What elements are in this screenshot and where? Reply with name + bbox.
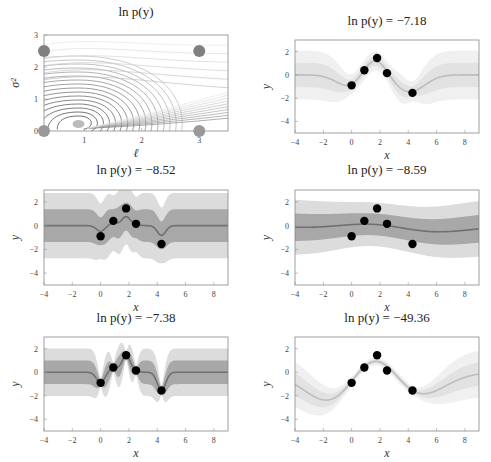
data-point: [408, 386, 416, 394]
hyperparameter-marker: [38, 125, 50, 137]
data-point: [122, 204, 130, 212]
x-tick-label: 0: [350, 138, 354, 147]
x-tick-label: 0: [99, 290, 103, 299]
y-tick-label: 0: [285, 368, 289, 377]
data-point: [96, 232, 104, 240]
x-tick-label: 4: [406, 290, 410, 299]
data-point: [373, 351, 381, 359]
y-tick-label: 0: [34, 222, 38, 231]
x-tick-label: 4: [406, 436, 410, 445]
gp-panel-1: −4−202468−4−202: [280, 40, 479, 147]
x-tick-label: −4: [291, 138, 300, 147]
y-tick-label: −2: [280, 392, 289, 401]
x-tick-label: 2: [378, 436, 382, 445]
x-tick-label: 8: [463, 138, 467, 147]
x-axis-label: x: [132, 446, 139, 460]
x-tick-label: 1: [82, 136, 86, 145]
gp-panel-2: −4−202468−4−202: [29, 189, 228, 299]
x-tick-label: 0: [99, 436, 103, 445]
x-tick-label: 0: [350, 436, 354, 445]
x-tick-label: −4: [291, 290, 300, 299]
y-tick-label: −4: [280, 415, 289, 424]
x-tick-label: 3: [197, 136, 201, 145]
data-point: [383, 220, 391, 228]
y-tick-label: −2: [280, 245, 289, 254]
x-tick-label: 2: [378, 138, 382, 147]
x-tick-label: 0: [350, 290, 354, 299]
x-tick-label: 6: [435, 138, 439, 147]
data-point: [96, 379, 104, 387]
x-tick-label: −2: [68, 290, 77, 299]
x-axis-label: ℓ: [134, 146, 139, 160]
x-tick-label: −4: [40, 290, 49, 299]
y-tick-label: 1: [34, 95, 38, 104]
x-axis-label: x: [383, 446, 390, 460]
optimum-marker: [73, 120, 85, 128]
x-tick-label: −2: [319, 290, 328, 299]
panel-title: ln p(y) = −7.38: [44, 310, 228, 326]
data-point: [360, 66, 368, 74]
data-point: [383, 69, 391, 77]
x-tick-label: −4: [291, 436, 300, 445]
panel-title: ln p(y) = −49.36: [295, 310, 479, 326]
y-tick-label: −2: [29, 245, 38, 254]
panel-title: ln p(y): [44, 4, 228, 20]
panel-title: ln p(y) = −7.18: [295, 13, 479, 29]
chart-canvas: 1230123ℓσ²−4−202468−4−202xy−4−202468−4−2…: [0, 0, 491, 462]
data-point: [109, 363, 117, 371]
x-tick-label: 8: [463, 436, 467, 445]
x-tick-label: −2: [319, 436, 328, 445]
x-tick-label: 4: [406, 138, 410, 147]
y-tick-label: 2: [285, 345, 289, 354]
x-tick-label: 2: [140, 136, 144, 145]
data-point: [157, 240, 165, 248]
data-point: [132, 366, 140, 374]
x-tick-label: 6: [435, 436, 439, 445]
data-point: [122, 351, 130, 359]
y-axis-label: y: [259, 234, 273, 241]
y-tick-label: −4: [29, 415, 38, 424]
data-point: [360, 217, 368, 225]
y-tick-label: 0: [34, 368, 38, 377]
contour-plot: 1230123: [0, 31, 228, 183]
y-tick-label: 0: [285, 71, 289, 80]
y-tick-label: 2: [285, 198, 289, 207]
y-tick-label: 0: [34, 127, 38, 136]
hyperparameter-marker: [38, 45, 50, 57]
y-tick-label: 2: [34, 198, 38, 207]
y-axis-label: y: [8, 234, 22, 241]
data-point: [132, 220, 140, 228]
x-tick-label: 6: [435, 290, 439, 299]
x-tick-label: 4: [155, 436, 159, 445]
hyperparameter-marker: [193, 125, 205, 137]
gp-panel-3: −4−202468−4−202: [280, 190, 479, 299]
x-tick-label: −2: [319, 138, 328, 147]
y-tick-label: −2: [29, 392, 38, 401]
data-point: [347, 379, 355, 387]
data-point: [383, 366, 391, 374]
x-tick-label: −4: [40, 436, 49, 445]
x-tick-label: −2: [68, 436, 77, 445]
x-tick-label: 8: [212, 290, 216, 299]
data-point: [408, 240, 416, 248]
x-tick-label: 2: [127, 290, 131, 299]
x-tick-label: 4: [155, 290, 159, 299]
data-point: [373, 54, 381, 62]
panel-title: ln p(y) = −8.52: [44, 162, 228, 178]
data-point: [347, 81, 355, 89]
y-tick-label: −4: [29, 269, 38, 278]
x-tick-label: 6: [184, 290, 188, 299]
hyperparameter-marker: [193, 45, 205, 57]
gp-panel-4: −4−202468−4−202: [29, 337, 228, 445]
x-tick-label: 2: [378, 290, 382, 299]
gp-panel-5: −4−202468−4−202: [280, 337, 479, 445]
y-tick-label: 2: [285, 48, 289, 57]
y-tick-label: 0: [285, 222, 289, 231]
data-point: [360, 363, 368, 371]
y-axis-label: σ²: [8, 78, 22, 88]
x-tick-label: 8: [212, 436, 216, 445]
y-tick-label: −4: [280, 117, 289, 126]
y-tick-label: 3: [34, 31, 38, 40]
y-tick-label: 2: [34, 63, 38, 72]
y-tick-label: −2: [280, 94, 289, 103]
